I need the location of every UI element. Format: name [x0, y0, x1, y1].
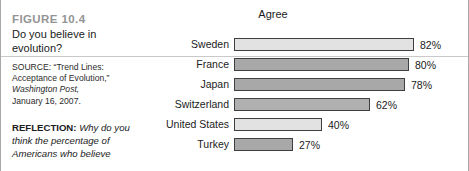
bar-row: United States40% — [153, 116, 469, 136]
figure-container: FIGURE 10.4 Do you believe in evolution?… — [0, 0, 469, 171]
bar-list: Sweden82%France80%Japan78%Switzerland62%… — [153, 36, 469, 156]
bar-row: Sweden82% — [153, 36, 469, 56]
bar-fill — [234, 98, 370, 111]
bar-track: 78% — [234, 78, 427, 91]
bar-value-label: 80% — [415, 59, 436, 72]
bar-category-label: United States — [153, 118, 229, 131]
bar-track: 62% — [234, 98, 427, 111]
bar-fill — [234, 78, 405, 91]
bar-value-label: 40% — [328, 119, 349, 132]
bar-track: 27% — [234, 138, 427, 151]
bar-value-label: 82% — [420, 39, 441, 52]
reflection-note: REFLECTION: Why do you think the percent… — [12, 121, 143, 161]
source-publication: Washington Post, — [12, 84, 79, 94]
bar-row: Japan78% — [153, 76, 469, 96]
source-line-1: SOURCE: “Trend Lines: — [12, 62, 104, 72]
bar-value-label: 27% — [299, 139, 320, 152]
source-line-2: Acceptance of Evolution,” — [12, 73, 109, 83]
bar-fill — [234, 58, 409, 71]
bar-track: 80% — [234, 58, 427, 71]
figure-number: FIGURE 10.4 — [12, 13, 143, 26]
bar-value-label: 62% — [376, 99, 397, 112]
bar-row: Turkey27% — [153, 136, 469, 156]
bar-fill — [234, 138, 293, 151]
bar-track: 82% — [234, 38, 427, 51]
bar-value-label: 78% — [411, 79, 432, 92]
bar-fill — [234, 38, 414, 51]
bar-row: France80% — [153, 56, 469, 76]
bar-row: Switzerland62% — [153, 96, 469, 116]
bar-category-label: Japan — [153, 78, 229, 91]
bar-category-label: Sweden — [153, 38, 229, 51]
bar-category-label: Switzerland — [153, 98, 229, 111]
chart-area: Agree Sweden82%France80%Japan78%Switzerl… — [153, 0, 469, 171]
bar-fill — [234, 118, 322, 131]
bar-category-label: France — [153, 58, 229, 71]
reflection-label: REFLECTION: — [12, 122, 77, 133]
figure-title: Do you believe in evolution? — [12, 28, 143, 55]
chart-title: Agree — [153, 8, 393, 20]
bar-track: 40% — [234, 118, 427, 131]
bar-category-label: Turkey — [153, 138, 229, 151]
caption-column: FIGURE 10.4 Do you believe in evolution?… — [1, 0, 153, 171]
source-date: January 16, 2007. — [12, 96, 81, 106]
source-citation: SOURCE: “Trend Lines: Acceptance of Evol… — [12, 62, 143, 107]
